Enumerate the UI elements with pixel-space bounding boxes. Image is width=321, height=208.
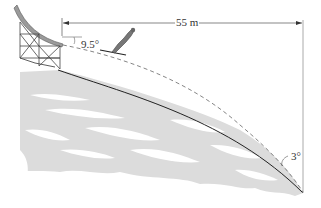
landing-angle-label: 3° [290,151,302,162]
takeoff-angle-label: 9.5° [80,39,100,50]
arrow-right-icon [296,21,302,25]
landing-angle-arc [282,156,288,166]
jumper-body [112,30,134,53]
arrow-left-icon [63,21,69,25]
lattice-tower [20,22,60,69]
tower-ground [20,58,55,67]
takeoff-angle-arc [74,37,75,44]
horizontal-distance-label: 55 m [175,17,199,28]
ski-jumper [100,28,135,55]
ski-jump-diagram [0,0,321,208]
jumper-head [131,28,135,32]
takeoff-ramp [14,5,63,47]
